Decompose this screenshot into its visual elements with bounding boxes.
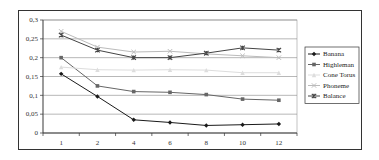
y-tick-label: 0,3	[29, 16, 38, 24]
diamond-marker-icon	[168, 120, 172, 124]
y-tick-label: 0,1	[29, 92, 38, 100]
legend-label: Cone Torus	[323, 71, 356, 79]
legend-label: Highleman	[323, 61, 355, 69]
legend-label: Phoneme	[323, 82, 349, 90]
diamond-marker-icon	[240, 123, 244, 127]
y-axis-ticks: 00,050,10,150,20,250,3	[26, 16, 39, 137]
legend: BananaHighlemanCone TorusPhonemeBalance	[305, 47, 359, 104]
x-tick-label: 8	[205, 139, 209, 147]
x-axis-ticks: 124681012	[59, 139, 282, 147]
x-tick-label: 1	[59, 139, 63, 147]
star-marker-icon	[59, 33, 63, 37]
y-tick-label: 0	[35, 129, 39, 137]
x-tick-label: 6	[168, 139, 172, 147]
line-chart: 00,050,10,150,20,250,3 124681012 BananaH…	[0, 0, 379, 160]
y-tick-label: 0,15	[26, 73, 39, 81]
series-line	[61, 31, 279, 57]
series-phoneme	[59, 29, 281, 60]
square-marker-icon	[96, 84, 100, 88]
gridlines	[43, 20, 297, 133]
y-tick-label: 0,25	[26, 35, 39, 43]
y-tick-label: 0,05	[26, 110, 39, 118]
series-cone-torus	[59, 65, 281, 75]
square-marker-icon	[204, 93, 208, 97]
y-tick-label: 0,2	[29, 54, 38, 62]
axes	[40, 20, 297, 136]
x-tick-label: 4	[132, 139, 136, 147]
x-tick-label: 10	[239, 139, 247, 147]
diamond-marker-icon	[277, 122, 281, 126]
series-lines	[59, 29, 281, 128]
x-tick-label: 2	[96, 139, 100, 147]
square-marker-icon	[168, 91, 172, 95]
square-marker-icon	[59, 56, 63, 60]
square-marker-icon	[312, 63, 316, 67]
series-line	[61, 35, 279, 58]
square-marker-icon	[241, 97, 245, 101]
legend-label: Banana	[323, 50, 345, 58]
legend-label: Balance	[323, 92, 346, 100]
square-marker-icon	[277, 98, 281, 102]
square-marker-icon	[132, 90, 136, 94]
diamond-marker-icon	[204, 123, 208, 127]
x-tick-label: 12	[275, 139, 283, 147]
